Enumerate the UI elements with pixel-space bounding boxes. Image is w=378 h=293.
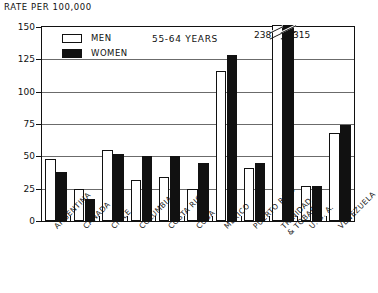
gridline <box>42 156 354 157</box>
y-axis-tick <box>36 59 42 60</box>
gridline <box>42 92 354 93</box>
y-axis-tick <box>36 27 42 28</box>
y-axis-tick-label: 75 <box>24 119 35 129</box>
gridline <box>42 124 354 125</box>
bar-value-label: 238 <box>254 30 271 40</box>
y-axis-tick <box>36 156 42 157</box>
legend-label-women: WOMEN <box>91 48 128 58</box>
legend-item-men: MEN <box>62 32 128 44</box>
legend: MEN WOMEN <box>62 32 128 62</box>
y-axis-tick <box>36 221 42 222</box>
bar-men <box>272 25 283 221</box>
bar-men <box>216 71 227 221</box>
legend-label-men: MEN <box>91 33 112 43</box>
y-axis-tick-label: 100 <box>18 87 35 97</box>
y-axis-title: RATE PER 100,000 <box>4 2 92 12</box>
bar-men <box>45 159 56 221</box>
bar-women <box>227 55 238 221</box>
y-axis-tick <box>36 189 42 190</box>
y-axis-tick-label: 150 <box>18 22 35 32</box>
gridline <box>42 59 354 60</box>
y-axis-tick-label: 125 <box>18 54 35 64</box>
y-axis-tick <box>36 92 42 93</box>
y-axis-tick <box>36 124 42 125</box>
y-axis-tick-label: 50 <box>24 151 35 161</box>
legend-item-women: WOMEN <box>62 47 128 59</box>
bar-women <box>340 125 351 221</box>
legend-swatch-women-icon <box>62 49 82 58</box>
plot-title: 55-64 YEARS <box>152 34 218 44</box>
legend-swatch-men-icon <box>62 34 82 43</box>
y-axis-tick-label: 0 <box>29 216 35 226</box>
bar-value-label: 315 <box>293 30 310 40</box>
y-axis-tick-label: 25 <box>24 184 35 194</box>
